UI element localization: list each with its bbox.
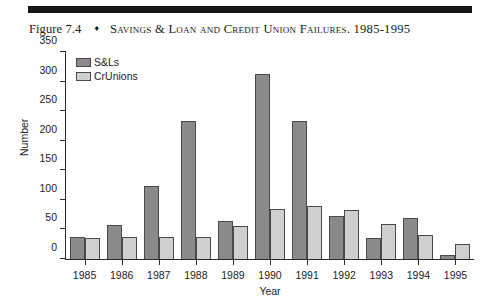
figure-caption: Figure 7.4 ♦ Savings & Loan and Credit U…: [29, 20, 479, 38]
x-tick-label-1995: 1995: [444, 269, 467, 281]
bar-crunions-1985[interactable]: [85, 238, 100, 259]
x-tick-1986: [122, 259, 123, 265]
bar-crunions-1989[interactable]: [233, 226, 248, 259]
x-tick-1988: [196, 259, 197, 265]
bar-sls-1986[interactable]: [107, 225, 122, 259]
bar-crunions-1991[interactable]: [307, 206, 322, 259]
legend-swatch-icon: [76, 72, 91, 81]
bar-sls-1987[interactable]: [144, 186, 159, 259]
bar-sls-1988[interactable]: [181, 121, 196, 259]
x-tick-label-1991: 1991: [295, 269, 318, 281]
x-tick-label-1990: 1990: [258, 269, 281, 281]
legend-label: CrUnions: [94, 70, 138, 82]
bar-crunions-1988[interactable]: [196, 237, 211, 259]
y-tick-label-200: 200: [39, 123, 57, 135]
x-tick-1991: [307, 259, 308, 265]
bar-sls-1992[interactable]: [329, 216, 344, 259]
bar-group-1994: 1994: [400, 52, 437, 259]
y-tick-label-50: 50: [45, 211, 57, 223]
x-tick-label-1992: 1992: [333, 269, 356, 281]
bar-crunions-1992[interactable]: [344, 210, 359, 259]
y-tick-label-300: 300: [39, 64, 57, 76]
y-tick-label-250: 250: [39, 93, 57, 105]
bar-group-1989: 1989: [214, 52, 251, 259]
x-tick-1992: [344, 259, 345, 265]
bar-crunions-1993[interactable]: [381, 224, 396, 259]
x-tick-label-1987: 1987: [147, 269, 170, 281]
bar-group-1991: 1991: [289, 52, 326, 259]
bar-sls-1991[interactable]: [292, 121, 307, 259]
bar-groups: 1985198619871988198919901991199219931994…: [66, 52, 474, 259]
diamond-icon: ♦: [94, 24, 99, 33]
y-tick-label-150: 150: [39, 152, 57, 164]
bar-sls-1995[interactable]: [440, 255, 455, 259]
legend-item-crunions[interactable]: CrUnions: [76, 70, 138, 82]
x-axis-label: Year: [66, 285, 474, 297]
bar-sls-1990[interactable]: [255, 74, 270, 259]
figure-container: Figure 7.4 ♦ Savings & Loan and Credit U…: [0, 0, 497, 303]
bar-group-1986: 1986: [103, 52, 140, 259]
bar-sls-1993[interactable]: [366, 238, 381, 259]
x-tick-1995: [455, 259, 456, 265]
bar-group-1987: 1987: [140, 52, 177, 259]
x-tick-label-1994: 1994: [407, 269, 430, 281]
x-tick-label-1989: 1989: [221, 269, 244, 281]
y-tick-label-350: 350: [39, 34, 57, 46]
legend-item-sls[interactable]: S&Ls: [76, 56, 138, 68]
x-tick-1989: [233, 259, 234, 265]
bar-group-1985: 1985: [66, 52, 103, 259]
x-tick-1993: [381, 259, 382, 265]
bar-group-1992: 1992: [326, 52, 363, 259]
x-tick-label-1986: 1986: [110, 269, 133, 281]
bar-crunions-1995[interactable]: [455, 244, 470, 259]
x-tick-1987: [159, 259, 160, 265]
figure-title: Savings & Loan and Credit Union Failures…: [110, 22, 410, 37]
x-tick-1994: [418, 259, 419, 265]
bar-crunions-1990[interactable]: [270, 209, 285, 259]
legend-label: S&Ls: [94, 56, 119, 68]
bar-group-1993: 1993: [363, 52, 400, 259]
chart-legend: S&LsCrUnions: [76, 56, 138, 82]
bar-group-1995: 1995: [437, 52, 474, 259]
x-tick-1990: [270, 259, 271, 265]
x-tick-label-1993: 1993: [370, 269, 393, 281]
bar-crunions-1987[interactable]: [159, 237, 174, 259]
x-tick-label-1988: 1988: [184, 269, 207, 281]
legend-swatch-icon: [76, 58, 91, 67]
bar-group-1988: 1988: [177, 52, 214, 259]
y-tick-label-100: 100: [39, 182, 57, 194]
y-tick-label-0: 0: [51, 241, 57, 253]
bar-crunions-1986[interactable]: [122, 237, 137, 259]
bar-sls-1985[interactable]: [70, 237, 85, 259]
x-tick-1985: [85, 259, 86, 265]
x-tick-label-1985: 1985: [73, 269, 96, 281]
plot-frame: 050100150200250300350 198519861987198819…: [65, 52, 474, 260]
bar-sls-1989[interactable]: [218, 221, 233, 259]
top-rule-divider: [28, 6, 472, 13]
bar-sls-1994[interactable]: [403, 218, 418, 259]
y-axis-label: Number: [18, 119, 30, 156]
bar-group-1990: 1990: [251, 52, 288, 259]
bar-crunions-1994[interactable]: [418, 235, 433, 259]
